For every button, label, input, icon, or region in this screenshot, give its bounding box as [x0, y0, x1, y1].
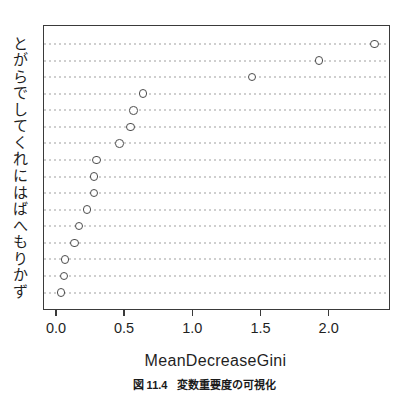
data-point-も	[70, 239, 79, 248]
gridline	[44, 76, 389, 78]
data-point-が	[315, 56, 324, 65]
data-point-て	[126, 123, 135, 132]
data-point-ば	[83, 205, 92, 214]
data-point-ら	[248, 73, 257, 82]
y-tick-label: も	[0, 233, 40, 250]
y-tick-label: に	[0, 167, 40, 184]
x-axis: 0.00.51.01.52.0	[43, 308, 388, 353]
y-tick-label: で	[0, 84, 40, 101]
data-point-く	[115, 139, 124, 148]
data-point-り	[61, 255, 70, 264]
gridline	[44, 292, 389, 294]
gridline	[44, 60, 389, 62]
variable-importance-figure: とがらでしてくれにはばへもりかず 0.00.51.01.52.0 MeanDec…	[0, 0, 409, 402]
plot-area	[43, 25, 390, 310]
gridline	[44, 43, 389, 45]
y-tick-label: は	[0, 184, 40, 201]
data-point-と	[370, 40, 379, 49]
y-tick-label: れ	[0, 150, 40, 167]
x-tick-mark	[123, 310, 125, 316]
y-tick-label: て	[0, 117, 40, 134]
y-tick-label: ず	[0, 283, 40, 300]
gridline	[44, 275, 389, 277]
y-tick-label: か	[0, 266, 40, 283]
x-tick-label: 2.0	[307, 320, 351, 336]
x-tick-mark	[55, 310, 57, 316]
gridline	[44, 209, 389, 211]
y-tick-label: ら	[0, 68, 40, 85]
y-tick-label: と	[0, 35, 40, 52]
data-point-は	[90, 189, 99, 198]
gridline	[44, 142, 389, 144]
y-tick-label: し	[0, 101, 40, 118]
data-point-し	[129, 106, 138, 115]
gridline	[44, 225, 389, 227]
x-tick-label: 0.0	[34, 320, 78, 336]
x-tick-label: 0.5	[102, 320, 146, 336]
gridline	[44, 242, 389, 244]
data-point-か	[60, 272, 69, 281]
y-tick-label: へ	[0, 217, 40, 234]
data-point-へ	[75, 222, 84, 231]
data-point-ず	[57, 288, 66, 297]
gridline	[44, 126, 389, 128]
x-tick-label: 1.5	[239, 320, 283, 336]
figure-caption-text: 変数重要度の可視化	[177, 379, 276, 391]
data-point-に	[90, 172, 99, 181]
figure-caption-number: 図 11.4	[133, 379, 168, 391]
y-tick-label: が	[0, 51, 40, 68]
y-axis: とがらでしてくれにはばへもりかず	[0, 25, 43, 308]
gridline	[44, 258, 389, 260]
data-point-れ	[92, 156, 101, 165]
x-tick-mark	[260, 310, 262, 316]
y-tick-label: ば	[0, 200, 40, 217]
gridline	[44, 93, 389, 95]
x-tick-label: 1.0	[170, 320, 214, 336]
x-tick-mark	[192, 310, 194, 316]
y-tick-label: く	[0, 134, 40, 151]
x-tick-mark	[328, 310, 330, 316]
x-axis-title: MeanDecreaseGini	[43, 352, 388, 370]
y-tick-label: り	[0, 250, 40, 267]
gridline	[44, 109, 389, 111]
data-point-で	[139, 89, 148, 98]
figure-caption: 図 11.4変数重要度の可視化	[0, 376, 409, 392]
